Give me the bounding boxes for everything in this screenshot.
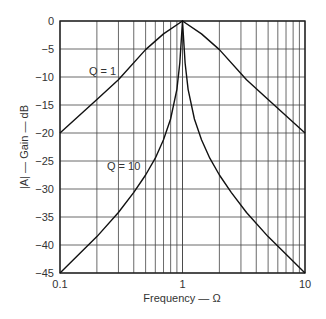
x-axis-label: Frequency — Ω	[143, 292, 220, 304]
x-tick-label: 10	[299, 278, 311, 290]
y-tick-label: −10	[35, 71, 54, 83]
x-tick-label: 0.1	[52, 278, 67, 290]
y-tick-label: −45	[35, 267, 54, 279]
y-tick-label: −15	[35, 99, 54, 111]
annotation-q1: Q = 1	[89, 65, 116, 77]
y-tick-label: −5	[41, 43, 54, 55]
y-tick-label: 0	[48, 15, 54, 27]
x-tick-label: 1	[179, 278, 185, 290]
annotation-q10: Q = 10	[107, 160, 140, 172]
gain-chart: 0−5−10−15−20−25−30−35−40−45 0.1110 Q = 1…	[0, 0, 326, 319]
y-tick-label: −30	[35, 183, 54, 195]
grid	[60, 21, 305, 273]
y-tick-label: −20	[35, 127, 54, 139]
y-axis-label: |A| — Gain — dB	[18, 105, 30, 189]
y-tick-label: −35	[35, 211, 54, 223]
y-tick-label: −40	[35, 239, 54, 251]
x-axis-ticks: 0.1110	[52, 278, 311, 290]
y-axis-ticks: 0−5−10−15−20−25−30−35−40−45	[35, 15, 54, 279]
y-tick-label: −25	[35, 155, 54, 167]
